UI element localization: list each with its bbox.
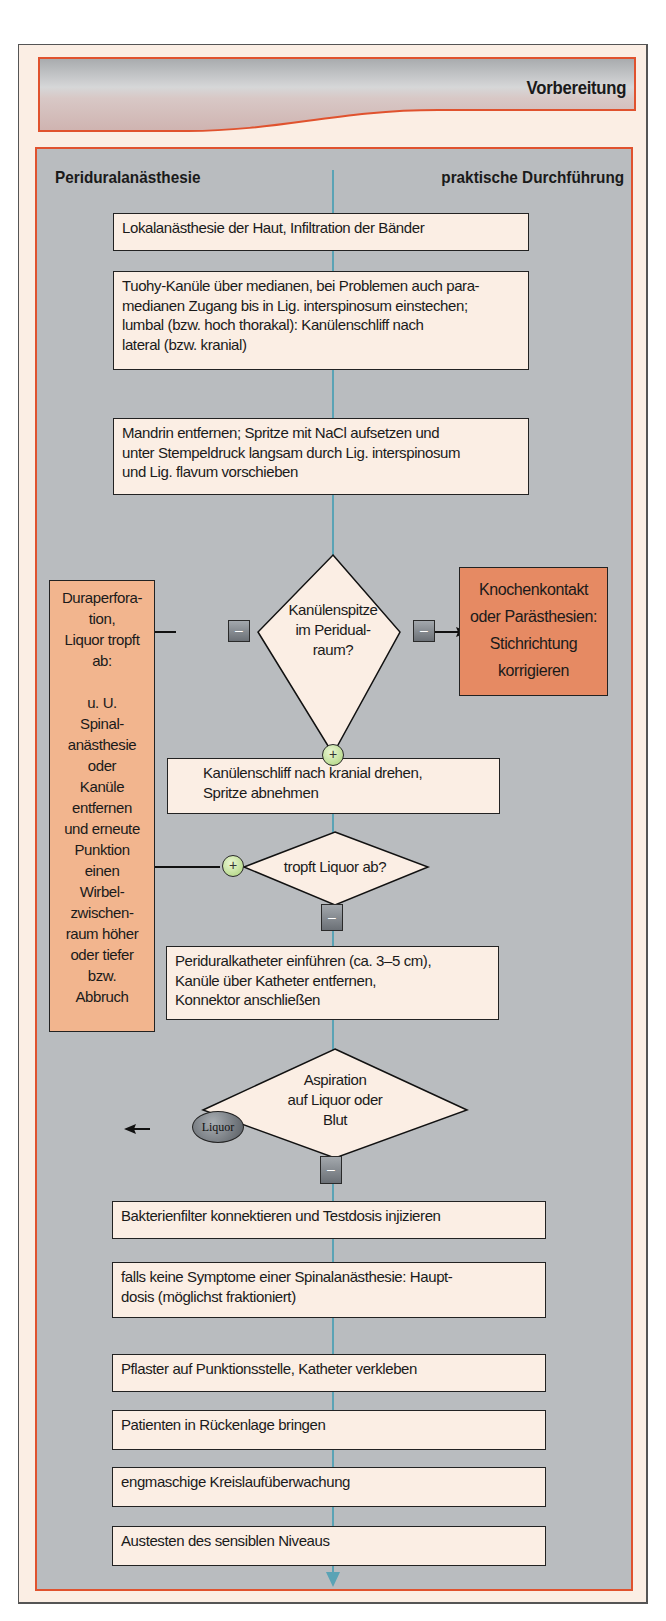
step-text: medianen Zugang bis in Lig. interspinosu…: [122, 296, 520, 316]
side-line: Wirbel-: [50, 881, 154, 902]
decision-line: im Peridual-: [273, 620, 393, 640]
step-text: falls keine Symptome einer Spinalanästhe…: [121, 1267, 537, 1287]
side-line: einen: [50, 860, 154, 881]
side-line: und erneute: [50, 818, 154, 839]
step-text: Periduralkatheter einführen (ca. 3–5 cm)…: [175, 951, 490, 971]
branch-no-left-node: –: [228, 620, 250, 642]
step-box-9: Patienten in Rückenlage bringen: [112, 1410, 546, 1450]
step-box-10: engmaschige Kreislaufüberwachung: [112, 1467, 546, 1507]
side-line: Spinal-: [50, 713, 154, 734]
step-text: lumbal (bzw. hoch thorakal): Kanülenschl…: [122, 315, 520, 335]
side-line: Punktion: [50, 839, 154, 860]
step-text: Austesten des sensiblen Niveaus: [121, 1531, 537, 1551]
step-box-2: Tuohy-Kanüle über medianen, bei Probleme…: [113, 271, 529, 370]
branch-no-down-node: –: [320, 1156, 342, 1184]
decision-line: auf Liquor oder: [260, 1090, 410, 1110]
step-box-3: Mandrin entfernen; Spritze mit NaCl aufs…: [113, 418, 529, 495]
step-text: Lokalanästhesie der Haut, Infiltration d…: [122, 218, 520, 238]
side-line: korrigieren: [460, 657, 607, 684]
branch-liquor-node: Liquor: [192, 1111, 244, 1143]
decision-line: Blut: [260, 1110, 410, 1130]
side-line: u. U.: [50, 692, 154, 713]
branch-no-right-node: –: [413, 620, 435, 642]
side-line: Liquor tropft: [50, 629, 154, 650]
step-text: lateral (bzw. kranial): [122, 335, 520, 355]
step-text: Spritze abnehmen: [203, 783, 491, 803]
side-line: ab:: [50, 650, 154, 671]
step-text: Mandrin entfernen; Spritze mit NaCl aufs…: [122, 423, 520, 443]
decision-text-1: Kanülenspitze im Peridual- raum?: [273, 600, 393, 660]
branch-no-down-node: –: [321, 904, 343, 931]
side-line: Knochenkontakt: [460, 576, 607, 603]
side-line: Abbruch: [50, 986, 154, 1007]
side-line: tion,: [50, 608, 154, 629]
step-text: unter Stempeldruck langsam durch Lig. in…: [122, 443, 520, 463]
side-line: bzw.: [50, 965, 154, 986]
side-box-bone-contact: Knochenkontakt oder Parästhesien: Stichr…: [459, 567, 608, 696]
step-text: Bakterienfilter konnektieren und Testdos…: [121, 1206, 537, 1226]
side-line: anästhesie: [50, 734, 154, 755]
side-line: oder: [50, 755, 154, 776]
branch-yes-left-node: +: [222, 855, 244, 877]
side-line: entfernen: [50, 797, 154, 818]
side-line: Stichrichtung: [460, 630, 607, 657]
decision-text-2: tropft Liquor ab?: [260, 857, 410, 877]
step-text: engmaschige Kreislaufüberwachung: [121, 1472, 537, 1492]
step-box-6: Bakterienfilter konnektieren und Testdos…: [112, 1201, 546, 1239]
step-text: Tuohy-Kanüle über medianen, bei Probleme…: [122, 276, 520, 296]
step-text: dosis (möglichst fraktioniert): [121, 1287, 537, 1307]
side-line: Duraperfora-: [50, 587, 154, 608]
side-box-dura-perforation: Duraperfora- tion, Liquor tropft ab: u. …: [49, 580, 155, 1032]
step-box-7: falls keine Symptome einer Spinalanästhe…: [112, 1262, 546, 1318]
step-text: Pflaster auf Punktionsstelle, Katheter v…: [121, 1359, 537, 1379]
side-line: Kanüle: [50, 776, 154, 797]
decision-text-3: Aspiration auf Liquor oder Blut: [260, 1070, 410, 1130]
step-box-11: Austesten des sensiblen Niveaus: [112, 1526, 546, 1566]
step-text: Kanülenschliff nach kranial drehen,: [203, 763, 491, 783]
side-line: oder Parästhesien:: [460, 603, 607, 630]
decision-line: Kanülenspitze: [273, 600, 393, 620]
side-line-spacer: [50, 671, 154, 692]
step-text: Konnektor anschließen: [175, 990, 490, 1010]
side-line: raum höher: [50, 923, 154, 944]
branch-yes-down-node: +: [322, 744, 344, 766]
step-box-8: Pflaster auf Punktionsstelle, Katheter v…: [112, 1354, 546, 1392]
step-box-4: Kanülenschliff nach kranial drehen, Spri…: [167, 758, 500, 814]
side-line: zwischen-: [50, 902, 154, 923]
step-text: und Lig. flavum vorschieben: [122, 462, 520, 482]
step-box-1: Lokalanästhesie der Haut, Infiltration d…: [113, 213, 529, 251]
step-box-5: Periduralkatheter einführen (ca. 3–5 cm)…: [166, 946, 499, 1020]
step-text: Patienten in Rückenlage bringen: [121, 1415, 537, 1435]
decision-line: Aspiration: [260, 1070, 410, 1090]
step-text: Kanüle über Katheter entfernen,: [175, 971, 490, 991]
side-line: oder tiefer: [50, 944, 154, 965]
decision-line: raum?: [273, 640, 393, 660]
decision-line: tropft Liquor ab?: [260, 857, 410, 877]
